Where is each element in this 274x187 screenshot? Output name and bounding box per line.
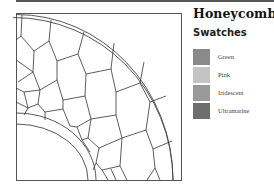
swatch-ultramarine[interactable]: Ultramarine bbox=[193, 102, 249, 119]
swatch-chip-ultramarine[interactable] bbox=[193, 103, 210, 119]
swatch-green[interactable]: Green bbox=[193, 48, 234, 65]
swatch-label: Pink bbox=[218, 71, 230, 78]
swatch-iridescent[interactable]: Iridescent bbox=[193, 84, 244, 101]
diagram-frame bbox=[17, 14, 182, 181]
swatch-pink[interactable]: Pink bbox=[193, 66, 230, 83]
swatches-heading: Swatches bbox=[193, 27, 247, 38]
swatch-chip-pink[interactable] bbox=[193, 67, 210, 83]
swatch-label: Ultramarine bbox=[218, 107, 249, 114]
swatch-label: Green bbox=[218, 53, 234, 60]
swatch-label: Iridescent bbox=[218, 89, 244, 96]
page-title: Honeycomb bbox=[193, 6, 274, 21]
swatch-chip-green[interactable] bbox=[193, 49, 210, 65]
swatch-chip-iridescent[interactable] bbox=[193, 85, 210, 101]
outer-arcs bbox=[13, 15, 173, 181]
